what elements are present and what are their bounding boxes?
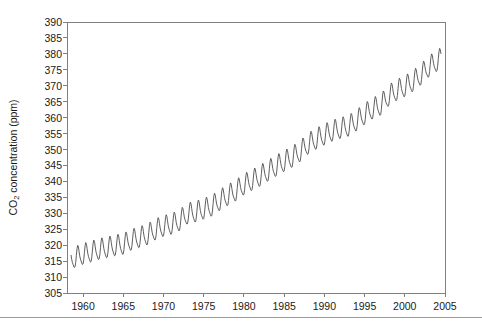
y-axis-title-pre: CO <box>7 200 19 216</box>
x-tick-label: 1975 <box>184 301 224 312</box>
y-axis-title-post: concentration (ppm) <box>7 99 19 195</box>
x-tick-label: 1995 <box>345 301 385 312</box>
co2-concentration-chart: 3053103153203253303353403453503553603653… <box>0 0 482 329</box>
y-axis-title: CO2 concentration (ppm) <box>22 22 40 293</box>
x-tick-label: 1965 <box>103 301 143 312</box>
x-tick-label: 1990 <box>304 301 344 312</box>
x-tick-label: 1985 <box>264 301 304 312</box>
y-axis-title-subscript: 2 <box>12 196 21 200</box>
x-tick-label: 1970 <box>144 301 184 312</box>
x-axis-tick-labels: 1960196519701975198019851990199520002005 <box>0 0 482 329</box>
x-tick-label: 1980 <box>224 301 264 312</box>
x-tick-label: 2000 <box>385 301 425 312</box>
x-tick-label: 2005 <box>425 301 465 312</box>
x-tick-label: 1960 <box>63 301 103 312</box>
footer-rule <box>0 317 482 318</box>
